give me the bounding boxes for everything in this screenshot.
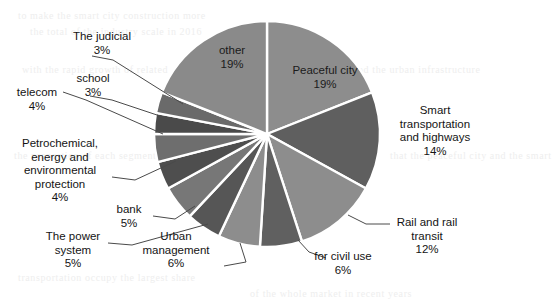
slice-label-petrochemical-line4: protection xyxy=(35,178,86,190)
slice-label-telecom-pct: 4% xyxy=(29,100,46,112)
slice-label-peaceful-city-pct: 19% xyxy=(313,78,336,90)
slice-label-power-system-line2: system xyxy=(55,244,91,256)
slice-label-other-pct: 19% xyxy=(220,58,243,70)
slice-label-other-name: other xyxy=(219,44,245,56)
slice-label-rail-transit-pct: 12% xyxy=(415,243,438,255)
slice-label-rail-transit-line2: transit xyxy=(411,230,442,242)
slice-label-smart-transportation-pct: 14% xyxy=(423,145,446,157)
slice-label-peaceful-city-name: Peaceful city xyxy=(292,64,357,76)
slice-label-rail-transit: Rail and rail transit 12% xyxy=(381,216,473,257)
slice-label-bank: bank 5% xyxy=(106,203,152,230)
slice-label-smart-transportation-line1: Smart xyxy=(420,104,451,116)
slice-label-petrochemical-pct: 4% xyxy=(52,191,69,203)
slice-label-peaceful-city: Peaceful city 19% xyxy=(277,64,373,91)
slice-label-smart-transportation-line2: transportation xyxy=(400,118,470,130)
slice-label-civil-use: for civil use 6% xyxy=(301,250,385,277)
slice-label-civil-use-pct: 6% xyxy=(335,264,352,276)
slice-label-other: other 19% xyxy=(197,44,267,71)
slice-label-school-pct: 3% xyxy=(85,86,102,98)
slice-label-power-system: The power system 5% xyxy=(36,230,110,271)
slice-label-judicial-name: The judicial xyxy=(73,30,131,42)
slice-label-judicial: The judicial 3% xyxy=(52,30,152,57)
slice-label-power-system-line1: The power xyxy=(46,230,100,242)
slice-label-urban-management: Urban management 6% xyxy=(128,230,224,271)
slice-label-school-name: school xyxy=(76,72,109,84)
slice-label-bank-pct: 5% xyxy=(121,217,138,229)
slice-label-telecom: telecom 4% xyxy=(6,86,68,113)
slice-label-urban-management-line2: management xyxy=(142,244,209,256)
slice-label-smart-transportation-line3: and highways xyxy=(400,131,470,143)
slice-label-power-system-pct: 5% xyxy=(65,257,82,269)
slice-label-civil-use-name: for civil use xyxy=(314,250,372,262)
leader-line-urban-management xyxy=(224,243,246,266)
slice-label-bank-name: bank xyxy=(117,203,142,215)
slice-label-petrochemical-line1: Petrochemical, xyxy=(22,137,98,149)
slice-label-telecom-name: telecom xyxy=(17,86,57,98)
slice-label-smart-transportation: Smart transportation and highways 14% xyxy=(384,104,486,158)
slice-label-urban-management-line1: Urban xyxy=(160,230,191,242)
slice-label-rail-transit-line1: Rail and rail xyxy=(397,216,458,228)
slice-label-urban-management-pct: 6% xyxy=(168,257,185,269)
slice-label-petrochemical: Petrochemical, energy and environmental … xyxy=(4,137,116,205)
slice-label-petrochemical-line3: environmental xyxy=(24,164,96,176)
slice-label-school: school 3% xyxy=(62,72,124,99)
slice-label-petrochemical-line2: energy and xyxy=(31,151,89,163)
slice-label-judicial-pct: 3% xyxy=(94,44,111,56)
